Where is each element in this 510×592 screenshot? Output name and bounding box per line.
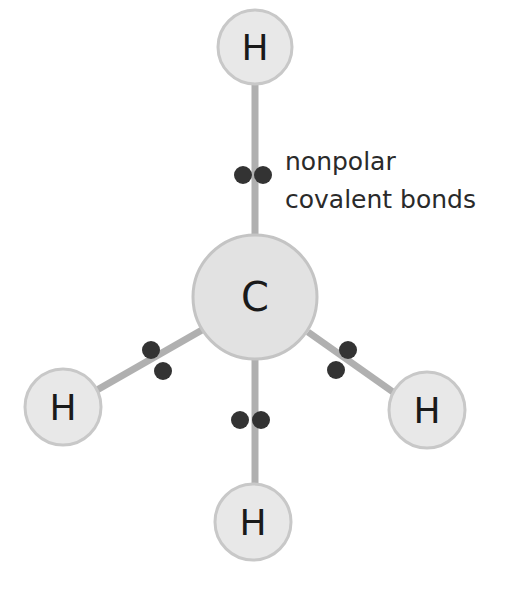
atom-label-h-top: H bbox=[241, 27, 268, 68]
electron-dot bbox=[154, 362, 172, 380]
atom-hydrogen-right: H bbox=[389, 372, 465, 448]
annotation-line2: covalent bonds bbox=[285, 185, 476, 214]
electron-dot bbox=[142, 341, 160, 359]
atom-hydrogen-bottom: H bbox=[215, 484, 291, 560]
electron-dot bbox=[231, 411, 249, 429]
electron-dot bbox=[254, 166, 272, 184]
atom-carbon: C bbox=[193, 235, 317, 359]
atom-label-h-bottom: H bbox=[239, 502, 266, 543]
atom-hydrogen-top: H bbox=[218, 10, 292, 84]
atom-hydrogen-left: H bbox=[25, 369, 101, 445]
electron-dot bbox=[339, 341, 357, 359]
annotation-line1: nonpolar bbox=[285, 147, 396, 176]
atom-label-c: C bbox=[241, 274, 269, 320]
atom-label-h-left: H bbox=[49, 387, 76, 428]
electron-dot bbox=[327, 361, 345, 379]
electron-dot bbox=[234, 166, 252, 184]
atom-label-h-right: H bbox=[413, 390, 440, 431]
electron-dot bbox=[252, 411, 270, 429]
bond-right bbox=[308, 332, 393, 392]
methane-diagram: C H H H H nonpolar covalent bonds bbox=[0, 0, 510, 592]
bond-left bbox=[97, 330, 202, 390]
